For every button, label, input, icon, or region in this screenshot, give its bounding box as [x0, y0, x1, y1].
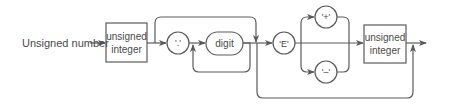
node-digit-label: digit	[215, 38, 234, 49]
syntax-diagram-unsigned-number: Unsigned number unsigned integer '.' dig…	[0, 0, 449, 108]
edge-minus-join	[337, 43, 349, 72]
diagram-title: Unsigned number	[22, 37, 109, 49]
edge-E-minus	[301, 43, 314, 72]
edge-plus-join	[337, 17, 349, 43]
node-unsigned-integer-1-line1: unsigned	[106, 31, 147, 42]
node-unsigned-integer-2	[364, 25, 406, 63]
node-unsigned-integer-1-line2: integer	[111, 44, 142, 55]
node-minus-label: '–'	[322, 67, 331, 77]
node-E-label: 'E'	[279, 39, 289, 49]
node-unsigned-integer-2-line1: unsigned	[365, 32, 406, 43]
edge-E-plus	[301, 17, 314, 43]
node-unsigned-integer-1	[106, 23, 147, 62]
node-unsigned-integer-2-line2: integer	[370, 45, 401, 56]
node-dot-label: '.'	[175, 38, 181, 48]
node-plus-label: '+'	[322, 12, 331, 22]
